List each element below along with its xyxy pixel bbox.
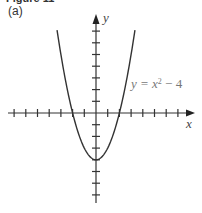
equation-label: y = x2 − 4: [129, 76, 183, 91]
y-axis-label: y: [101, 10, 109, 25]
x-axis-label: x: [185, 116, 192, 131]
y-axis-arrow-icon: [93, 14, 100, 24]
parabola-graph: x y y = x2 − 4: [0, 0, 202, 213]
x-axis: [8, 109, 188, 117]
